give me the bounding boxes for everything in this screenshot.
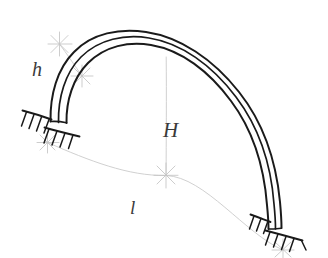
rise-label: H [162, 118, 180, 142]
span-label: l [130, 197, 135, 218]
arch-diagram-canvas: h H l [0, 0, 328, 258]
arch-right-springing-cap [269, 228, 282, 229]
arch-diagram-figure: h H l [0, 0, 328, 258]
thickness-label: h [32, 58, 42, 80]
